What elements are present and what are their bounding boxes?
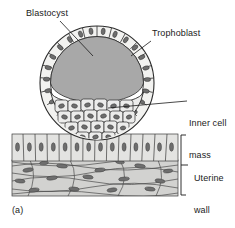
- label-inner-cell-mass-line1: Inner cell: [189, 118, 227, 129]
- label-uterine-wall-line1: Uterine: [194, 173, 224, 184]
- label-uterine-wall-line2: wall: [194, 205, 224, 216]
- uterine-stroma: [12, 158, 178, 196]
- bracket-uterine-wall: [181, 135, 188, 195]
- uterine-wall: [12, 134, 178, 196]
- panel-label: (a): [12, 205, 23, 216]
- label-trophoblast: Trophoblast: [152, 28, 200, 39]
- label-uterine-wall: Uterine wall: [194, 152, 224, 228]
- blastocyst: [40, 26, 155, 143]
- figure-panel: Blastocyst Trophoblast Inner cell mass U…: [0, 0, 235, 228]
- label-blastocyst: Blastocyst: [26, 8, 68, 19]
